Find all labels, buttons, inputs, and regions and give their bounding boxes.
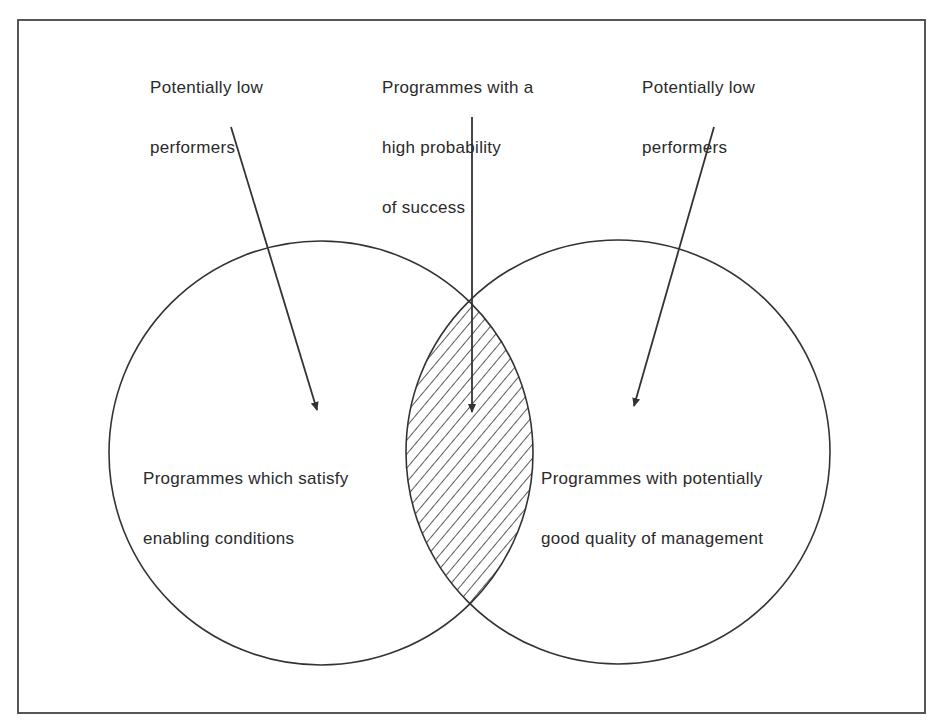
- left-callout-line1: Potentially low: [150, 78, 263, 98]
- right-callout-line2: performers: [642, 138, 755, 158]
- right-set-line2: good quality of management: [541, 529, 763, 549]
- intersection-line1: Programmes with a: [382, 78, 534, 98]
- right-callout-line1: Potentially low: [642, 78, 755, 98]
- intersection-callout-label: Programmes with a high probability of su…: [382, 38, 534, 238]
- left-set-line2: enabling conditions: [143, 529, 349, 549]
- left-callout-label: Potentially low performers: [150, 38, 263, 178]
- left-set-label: Programmes which satisfy enabling condit…: [143, 429, 349, 569]
- intersection-line2: high probability: [382, 138, 534, 158]
- right-set-label: Programmes with potentially good quality…: [541, 429, 763, 569]
- left-callout-line2: performers: [150, 138, 263, 158]
- left-set-line1: Programmes which satisfy: [143, 469, 349, 489]
- right-callout-label: Potentially low performers: [642, 38, 755, 178]
- intersection-line3: of success: [382, 198, 534, 218]
- right-set-line1: Programmes with potentially: [541, 469, 763, 489]
